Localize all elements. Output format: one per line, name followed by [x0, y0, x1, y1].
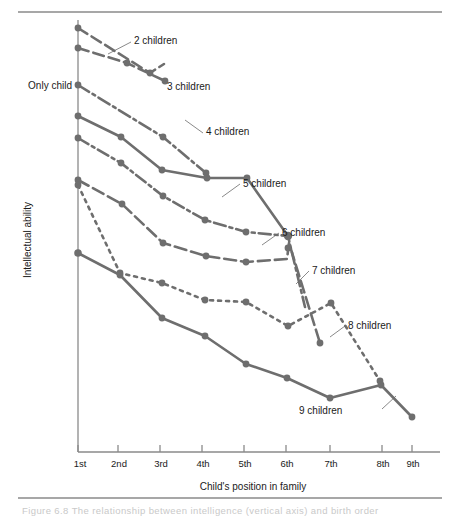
series-label-8-children: 8 children: [348, 320, 391, 331]
data-point: [285, 245, 292, 252]
x-tick-label: 4th: [196, 458, 209, 469]
data-point: [160, 193, 167, 200]
data-point: [118, 134, 125, 141]
series-label-7-children: 7 children: [312, 265, 355, 276]
series-line: [78, 116, 288, 236]
data-point: [243, 361, 250, 368]
data-point: [202, 297, 209, 304]
data-point: [203, 253, 210, 260]
x-tick-label: 5th: [238, 458, 251, 469]
data-point: [204, 175, 211, 182]
data-point: [243, 299, 250, 306]
series-line: [78, 85, 206, 173]
data-point: [160, 134, 167, 141]
data-point: [202, 333, 209, 340]
data-point: [317, 340, 324, 347]
x-axis-tick-labels: 1st 2nd 3rd 4th 5th 6th 7th 8th 9th: [74, 458, 420, 469]
data-point: [117, 272, 124, 279]
data-point: [327, 395, 334, 402]
series-label-6-children: 6 children: [282, 227, 325, 238]
series-8-children[interactable]: [75, 182, 384, 385]
data-point: [119, 201, 126, 208]
data-point: [118, 160, 125, 167]
data-point: [74, 249, 82, 257]
series-6-children[interactable]: [75, 135, 305, 307]
annotation-labels: 2 children 3 children 4 children 5 child…: [134, 35, 391, 416]
data-point: [284, 375, 291, 382]
data-point: [160, 240, 167, 247]
series-label-4-children: 4 children: [206, 126, 249, 137]
data-point: [75, 113, 82, 120]
x-tick-label: 1st: [74, 458, 87, 469]
x-axis-title: Child's position in family: [200, 481, 306, 492]
y-axis-title: Intellectual ability: [22, 202, 33, 278]
figure-container: 1st 2nd 3rd 4th 5th 6th 7th 8th 9th Chil…: [0, 0, 460, 520]
figure-caption: Figure 6.8 The relationship between inte…: [22, 505, 442, 516]
birth-order-line-chart: 1st 2nd 3rd 4th 5th 6th 7th 8th 9th Chil…: [0, 0, 460, 520]
series-line: [78, 253, 412, 417]
series-7-children[interactable]: [75, 177, 324, 347]
data-point: [378, 382, 385, 389]
data-point: [124, 60, 131, 67]
data-point: [285, 323, 292, 330]
data-point: [202, 217, 209, 224]
data-point: [75, 45, 82, 52]
data-point: [159, 280, 166, 287]
data-point: [409, 414, 416, 421]
series-label-9-children: 9 children: [299, 405, 342, 416]
x-tick-label: 8th: [376, 458, 389, 469]
x-tick-label: 9th: [406, 458, 419, 469]
x-axis-ticks: [78, 445, 412, 452]
leader-5-children: [222, 184, 240, 197]
x-tick-label: 6th: [280, 458, 293, 469]
series-label-2-children: 2 children: [134, 35, 177, 46]
leader-4-children: [185, 120, 203, 133]
series-5-children[interactable]: [75, 113, 293, 241]
data-point: [75, 135, 82, 142]
series-line: [78, 48, 165, 81]
x-tick-label: 7th: [324, 458, 337, 469]
series-label-3-children: 3 children: [167, 81, 210, 92]
series-line: [78, 180, 320, 343]
data-point: [328, 300, 335, 307]
data-point: [75, 25, 82, 32]
x-tick-label: 3rd: [154, 458, 168, 469]
annotation-leaders: [108, 42, 396, 409]
leader-9-children: [382, 396, 396, 409]
data-point: [159, 167, 166, 174]
data-point: [75, 182, 82, 189]
series-3-children[interactable]: [75, 45, 169, 85]
only-child-label: Only child: [28, 80, 72, 91]
series-label-5-children: 5 children: [243, 178, 286, 189]
data-point: [159, 315, 166, 322]
series-4-children[interactable]: [78, 85, 209, 176]
x-tick-label: 2nd: [111, 458, 127, 469]
series-line: [78, 138, 305, 307]
leader-8-children: [330, 326, 345, 337]
data-point: [243, 229, 250, 236]
data-point: [243, 259, 250, 266]
